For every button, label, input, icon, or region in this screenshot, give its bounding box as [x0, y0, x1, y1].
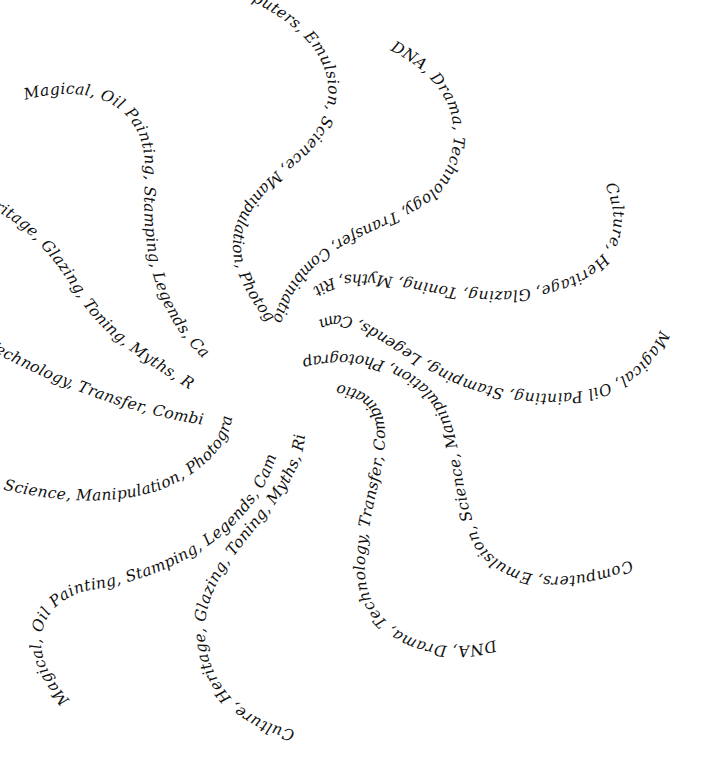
calligraphy-pinwheel: Computers, Emulsion, Science, Manipulati… [0, 0, 710, 758]
arm-left-computers: Computers, Emulsion, Science, Manipulati… [0, 0, 236, 505]
arm-bottom-dna: DNA, Drama, Technology, Transfer, Combin… [0, 0, 499, 660]
arm-top-left-magical: Magical, Oil Painting, Stamping, Legends… [0, 0, 213, 362]
arm-left-culture: Culture, Heritage, Glazing, Toning, Myth… [0, 0, 197, 393]
arm-right-magical: Magical, Oil Painting, Stamping, Legends… [0, 0, 674, 408]
